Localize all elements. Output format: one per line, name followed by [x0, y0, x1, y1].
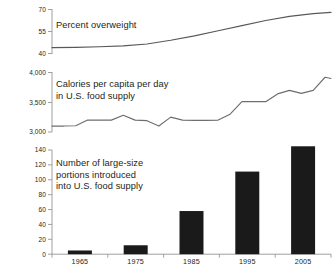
ytick-label-overweight-40: 40 — [18, 50, 46, 57]
ytick-label-portions-20: 20 — [14, 236, 46, 243]
ytick-label-overweight-70: 70 — [18, 6, 46, 13]
bar-2005 — [291, 146, 315, 254]
ytick-label-overweight-55: 55 — [18, 28, 46, 35]
ytick-label-portions-0: 0 — [14, 251, 46, 258]
ytick-label-portions-60: 60 — [14, 206, 46, 213]
figure-three-panel-chart: 70 55 40 Percent overweight 4,000 3,500 … — [0, 0, 335, 278]
xtick-label-1985: 1985 — [172, 258, 212, 266]
ytick-label-portions-120: 120 — [14, 161, 46, 168]
xtick-label-2005: 2005 — [283, 258, 323, 266]
xtick-label-1965: 1965 — [60, 258, 100, 266]
ytick-label-portions-40: 40 — [14, 221, 46, 228]
bar-1985 — [180, 211, 204, 254]
chart-canvas — [0, 0, 335, 278]
bar-1995 — [235, 172, 259, 255]
ytick-label-calories-3000: 3,000 — [8, 128, 46, 135]
panel-title-calories: Calories per capita per day in U.S. food… — [56, 79, 168, 102]
xtick-label-1995: 1995 — [227, 258, 267, 266]
bar-1965 — [68, 250, 92, 254]
xtick-label-1975: 1975 — [116, 258, 156, 266]
panel-title-portions: Number of large-size portions introduced… — [56, 158, 143, 193]
ytick-label-calories-4000: 4,000 — [8, 69, 46, 76]
ytick-label-portions-100: 100 — [14, 176, 46, 183]
bar-1975 — [124, 245, 148, 254]
ytick-label-portions-80: 80 — [14, 191, 46, 198]
ytick-label-portions-140: 140 — [14, 146, 46, 153]
panel-title-percent-overweight: Percent overweight — [56, 20, 136, 32]
ytick-label-calories-3500: 3,500 — [8, 99, 46, 106]
ytick-marks-portions — [48, 150, 52, 254]
